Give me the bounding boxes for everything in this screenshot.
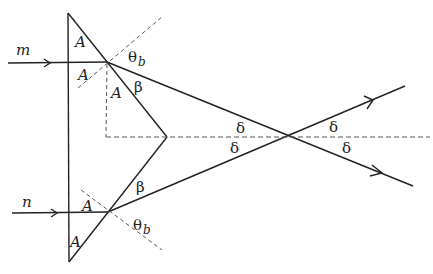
label-angle-A-top: A xyxy=(75,35,86,50)
prism-diagram: m n A A A A A θb θb β β δ δ δ δ xyxy=(0,0,433,274)
label-delta-3: δ xyxy=(329,120,338,135)
label-delta-2: δ xyxy=(230,141,239,156)
normal-upper xyxy=(78,16,163,88)
diagram-lines xyxy=(0,0,433,274)
label-ray-m: m xyxy=(16,43,30,58)
label-beta-lower: β xyxy=(136,180,145,195)
label-angle-A-lower: A xyxy=(82,199,93,214)
label-angle-A-left: A xyxy=(78,68,89,83)
prism-back-face xyxy=(68,13,69,262)
label-delta-4: δ xyxy=(342,141,351,156)
label-ray-n: n xyxy=(22,195,32,210)
label-delta-1: δ xyxy=(236,121,245,136)
refracted-ray-n xyxy=(108,86,405,212)
label-angle-A-bottom: A xyxy=(70,235,81,250)
dashed-vertical xyxy=(106,64,107,137)
refracted-ray-m xyxy=(107,62,413,186)
label-angle-A-inner: A xyxy=(111,86,122,101)
normal-lower xyxy=(81,190,162,250)
incident-ray-n xyxy=(12,212,108,213)
label-beta-upper: β xyxy=(134,80,143,95)
label-theta-b-upper: θb xyxy=(128,50,145,65)
label-theta-b-lower: θb xyxy=(133,218,150,233)
incident-ray-m xyxy=(8,62,107,63)
